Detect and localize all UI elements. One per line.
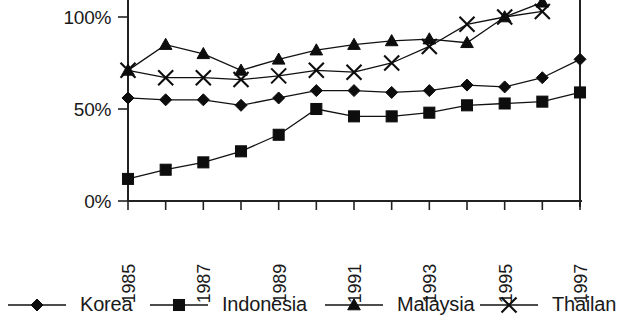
marker-square bbox=[198, 157, 209, 168]
x-axis-tick-labels: 1985198719891991199319951997 bbox=[119, 264, 591, 303]
legend-item-korea[interactable]: Korea bbox=[8, 293, 133, 315]
x-axis-tick-label: 1991 bbox=[345, 264, 365, 303]
legend-label: Korea bbox=[80, 293, 133, 315]
marker-diamond bbox=[273, 92, 285, 104]
series-line bbox=[128, 2, 542, 70]
chart-axes bbox=[118, 0, 582, 210]
marker-diamond bbox=[31, 299, 43, 311]
series-line bbox=[128, 11, 542, 79]
marker-diamond bbox=[423, 85, 435, 97]
marker-diamond bbox=[235, 99, 247, 111]
line-chart: 0%50%100% 1985198719891991199319951997 K… bbox=[0, 0, 626, 333]
marker-diamond bbox=[461, 79, 473, 91]
marker-diamond bbox=[536, 72, 548, 84]
legend-item-indonesia[interactable]: Indonesia bbox=[150, 293, 308, 315]
y-axis-tick-label: 100% bbox=[64, 7, 112, 28]
x-axis-tick-label: 1995 bbox=[496, 264, 516, 303]
marker-square bbox=[160, 164, 171, 175]
marker-square bbox=[311, 103, 322, 114]
y-axis-tick-label: 50% bbox=[74, 99, 112, 120]
series-thailand bbox=[121, 4, 550, 87]
chart-series-group bbox=[121, 0, 587, 184]
legend-label: Indonesia bbox=[222, 293, 308, 315]
marker-square bbox=[386, 111, 397, 122]
chart-legend: KoreaIndonesiaMalaysiaThailan bbox=[8, 293, 616, 315]
marker-square bbox=[235, 146, 246, 157]
x-axis-tick-label: 1987 bbox=[194, 264, 214, 303]
marker-square bbox=[424, 107, 435, 118]
series-malaysia bbox=[122, 0, 549, 75]
y-axis-tick-labels: 0%50%100% bbox=[64, 7, 112, 212]
marker-square bbox=[122, 173, 133, 184]
marker-square bbox=[537, 96, 548, 107]
series-line bbox=[128, 92, 580, 178]
marker-diamond bbox=[122, 92, 134, 104]
series-indonesia bbox=[122, 87, 585, 185]
marker-square bbox=[499, 98, 510, 109]
marker-square bbox=[173, 299, 184, 310]
marker-square bbox=[348, 111, 359, 122]
series-line bbox=[128, 59, 580, 105]
marker-diamond bbox=[348, 85, 360, 97]
marker-diamond bbox=[386, 86, 398, 98]
marker-diamond bbox=[197, 94, 209, 106]
marker-square bbox=[461, 100, 472, 111]
chart-figure: 0%50%100% 1985198719891991199319951997 K… bbox=[0, 0, 626, 333]
marker-diamond bbox=[160, 94, 172, 106]
marker-diamond bbox=[499, 81, 511, 93]
marker-square bbox=[273, 129, 284, 140]
legend-label: Thailan bbox=[552, 293, 616, 315]
legend-label: Malaysia bbox=[397, 293, 475, 315]
marker-triangle bbox=[159, 38, 172, 49]
marker-square bbox=[574, 87, 585, 98]
marker-diamond bbox=[574, 53, 586, 65]
marker-diamond bbox=[310, 85, 322, 97]
y-axis-tick-label: 0% bbox=[84, 191, 111, 212]
